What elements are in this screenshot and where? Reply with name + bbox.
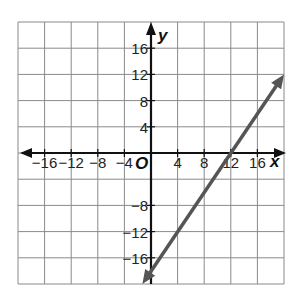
svg-text:12: 12 <box>131 66 148 83</box>
coordinate-plane: −16−12−8−4481216161284−8−12−16 x y O <box>0 0 291 299</box>
svg-text:−16: −16 <box>123 250 148 267</box>
y-axis-label: y <box>157 26 169 45</box>
svg-text:16: 16 <box>131 40 148 57</box>
origin-label: O <box>135 154 148 173</box>
svg-text:−12: −12 <box>123 224 148 241</box>
axes <box>20 22 286 284</box>
x-axis-label: x <box>269 152 281 171</box>
svg-text:8: 8 <box>140 93 148 110</box>
svg-text:−8: −8 <box>131 197 148 214</box>
svg-text:4: 4 <box>140 119 148 136</box>
